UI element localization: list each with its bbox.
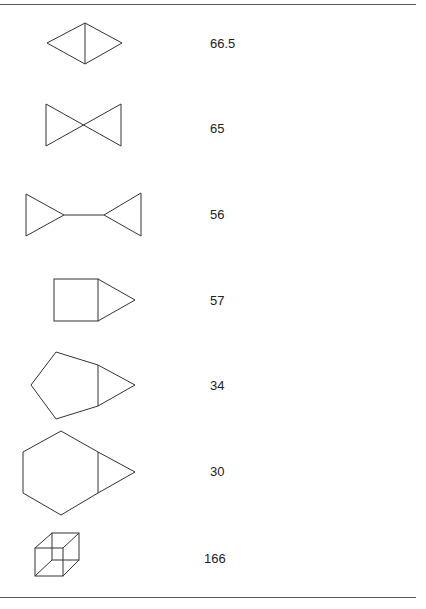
- value-label: 34: [210, 379, 224, 392]
- value-label: 166: [204, 552, 226, 565]
- value-label: 30: [210, 465, 224, 478]
- pentagon-triangle-shape: [31, 352, 135, 419]
- value-label: 57: [210, 294, 224, 307]
- bowtie-shape: [46, 104, 121, 146]
- bottom-rule: [0, 597, 416, 598]
- value-label: 56: [210, 208, 224, 221]
- value-label: 66.5: [210, 37, 235, 50]
- value-label: 65: [210, 122, 224, 135]
- diamond-shape: [47, 23, 122, 64]
- cube-shape: [35, 533, 79, 576]
- linked-triangles-shape: [26, 193, 141, 236]
- hexagon-triangle-shape: [23, 431, 135, 515]
- square-triangle-shape: [54, 279, 135, 321]
